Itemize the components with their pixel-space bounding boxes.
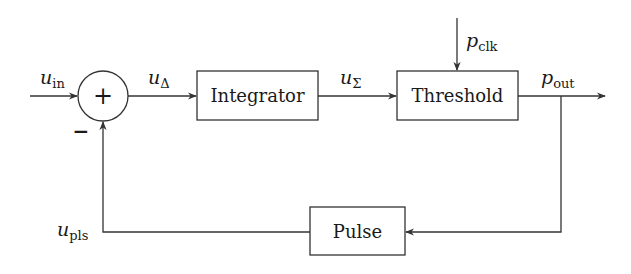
svg-text:upls: upls	[57, 218, 88, 243]
label-p-clk: pclk	[466, 29, 498, 54]
svg-text:Threshold: Threshold	[412, 85, 504, 106]
svg-text:Pulse: Pulse	[333, 221, 382, 242]
minus-sign: −	[73, 119, 90, 143]
pulse-block: Pulse	[310, 207, 405, 255]
svg-text:uΣ: uΣ	[340, 66, 361, 91]
svg-text:pclk: pclk	[466, 29, 498, 54]
label-u-sigma: uΣ	[340, 66, 361, 91]
feedback-arrow-to-sum	[103, 122, 310, 232]
label-p-out: pout	[541, 66, 575, 91]
svg-text:uin: uin	[40, 66, 65, 91]
label-u-delta: uΔ	[148, 66, 170, 91]
svg-text:Integrator: Integrator	[210, 85, 305, 106]
svg-text:uΔ: uΔ	[148, 66, 170, 91]
svg-text:pout: pout	[541, 66, 575, 91]
label-u-pls: upls	[57, 218, 88, 243]
integrator-block: Integrator	[197, 71, 318, 120]
summing-junction: +	[78, 71, 128, 121]
plus-icon: +	[93, 82, 113, 110]
label-u-in: uin	[40, 66, 65, 91]
threshold-block: Threshold	[397, 71, 518, 120]
block-diagram: uin + − uΔ Integrator uΣ pclk Threshold …	[0, 0, 631, 274]
